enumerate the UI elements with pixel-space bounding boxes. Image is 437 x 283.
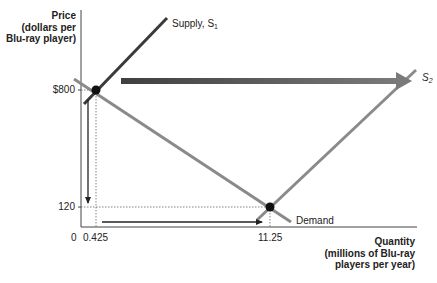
y-axis-title-line1: Price: [6, 10, 76, 22]
x-axis-title-line2: (millions of Blu-ray: [324, 248, 415, 260]
demand-label: Demand: [296, 215, 334, 227]
y-tick-120: 120: [58, 201, 75, 213]
y-axis-title-line3: Blu-ray player): [6, 33, 76, 45]
x-axis-title: Quantity (millions of Blu-ray players pe…: [324, 236, 415, 271]
supply-curve-s2: [257, 70, 416, 220]
supply-s1-label-text: Supply, S: [172, 18, 214, 29]
y-tick-800: $800: [53, 84, 75, 96]
x-axis-title-line1: Quantity: [324, 236, 415, 248]
x-axis-title-line3: players per year): [324, 259, 415, 271]
y-axis-title-line2: (dollars per: [6, 22, 76, 34]
supply-s2-label-text: S: [422, 72, 429, 83]
shift-arrow-body: [121, 78, 398, 84]
y-axis-title: Price (dollars per Blu-ray player): [6, 10, 76, 45]
x-tick-0: 0: [71, 232, 77, 244]
x-tick-0425: 0.425: [83, 232, 108, 244]
supply-s1-label-sub: 1: [214, 23, 218, 30]
demand-curve: [74, 79, 291, 222]
supply-s2-label-sub: 2: [429, 77, 433, 84]
equilibrium-point-1: [92, 86, 101, 95]
equilibrium-point-2: [266, 203, 275, 212]
supply-s1-label: Supply, S1: [172, 18, 218, 31]
x-tick-1125: 11.25: [258, 232, 282, 244]
supply-s2-label: S2: [422, 72, 433, 85]
